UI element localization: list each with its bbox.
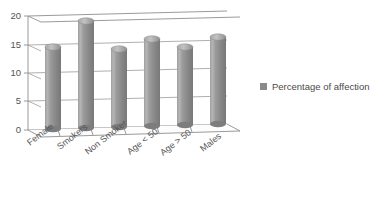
bar-bottom-cap xyxy=(210,121,226,127)
bar-top-cap xyxy=(111,46,127,52)
bar-top-cap xyxy=(45,44,61,50)
y-tick-label-0: 0 xyxy=(16,124,21,135)
bar-top-cap xyxy=(210,34,226,40)
bar-non-smoker[interactable] xyxy=(111,46,127,130)
bar-age-under-50[interactable] xyxy=(144,36,160,129)
legend-swatch-icon xyxy=(260,83,267,90)
y-axis-ticks xyxy=(24,16,28,130)
bar-chart-3d: 20 15 10 5 0 xyxy=(0,0,392,206)
y-tick-label-15: 15 xyxy=(10,39,21,50)
y-tick-label-20: 20 xyxy=(10,10,21,21)
bar-top-cap xyxy=(78,18,94,24)
chart-legend[interactable]: Percentage of affection xyxy=(260,81,370,92)
bar-top-cap xyxy=(177,44,193,50)
bar-age-over-50[interactable] xyxy=(177,44,193,128)
y-tick-label-10: 10 xyxy=(10,67,21,78)
bar-top-cap xyxy=(144,36,160,42)
bar-males[interactable] xyxy=(210,34,226,127)
legend-label-percentage-of-affection: Percentage of affection xyxy=(272,81,370,92)
bar-body xyxy=(210,37,226,124)
bar-body xyxy=(78,21,94,128)
bar-bottom-cap xyxy=(177,122,193,128)
x-label-males: Males xyxy=(198,131,223,154)
y-tick-label-5: 5 xyxy=(16,95,21,106)
bar-female[interactable] xyxy=(45,44,61,132)
bar-smokers[interactable] xyxy=(78,18,94,131)
chart-container: 20 15 10 5 0 xyxy=(0,0,392,206)
y-axis-tick-labels: 20 15 10 5 0 xyxy=(10,10,21,135)
bar-body xyxy=(177,47,193,125)
bar-body xyxy=(144,39,160,126)
bar-body xyxy=(45,47,61,129)
bar-body xyxy=(111,49,127,127)
